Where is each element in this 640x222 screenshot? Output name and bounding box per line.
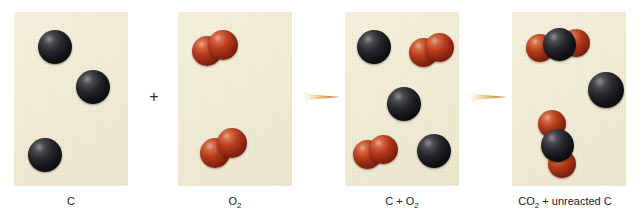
atom-carbon (543, 28, 576, 61)
molecule-carbon-atom (357, 30, 391, 64)
molecule-carbon-atom (76, 70, 110, 104)
molecule-oxygen (200, 124, 256, 166)
panel-label-mixture: C + O2 (345, 194, 459, 210)
panel-products (512, 12, 626, 186)
panel-label-carbon: C (14, 194, 128, 208)
molecule-carbon-atom (38, 30, 72, 64)
atom-carbon (357, 30, 391, 64)
label-subscript: 2 (535, 201, 539, 210)
panel-mixture (345, 12, 459, 186)
atom-oxygen (208, 30, 238, 60)
label-subscript: 2 (414, 201, 418, 210)
atom-carbon (588, 72, 624, 108)
panel-label-oxygen: O2 (178, 194, 292, 210)
plus-symbol: + (145, 88, 163, 106)
atom-carbon (387, 87, 421, 121)
reaction-arrow-icon (299, 86, 341, 108)
molecule-oxygen (353, 132, 407, 168)
panel-reactant-carbon (14, 12, 128, 186)
label-text: O (228, 195, 237, 207)
label-text-tail: + unreacted C (539, 195, 611, 207)
atom-carbon (541, 129, 574, 162)
panel-reactant-oxygen (178, 12, 292, 186)
reaction-arrow-icon (466, 86, 508, 108)
atom-carbon (38, 30, 72, 64)
molecule-carbon-atom (417, 134, 451, 168)
label-text: CO (518, 195, 535, 207)
label-text: C + O (385, 195, 414, 207)
atom-carbon (76, 70, 110, 104)
molecule-carbon-dioxide (526, 24, 604, 64)
atom-carbon (28, 138, 62, 172)
panel-label-products: CO2 + unreacted C (490, 194, 640, 210)
molecule-carbon-atom (387, 87, 421, 121)
molecule-oxygen (409, 30, 463, 66)
molecule-carbon-atom (28, 138, 62, 172)
atom-carbon (417, 134, 451, 168)
molecule-carbon-dioxide (536, 110, 582, 182)
atom-oxygen (217, 128, 247, 158)
reaction-figure: + (0, 0, 640, 222)
atom-oxygen (369, 135, 398, 164)
molecule-carbon-atom (588, 72, 624, 108)
atom-oxygen (425, 33, 454, 62)
label-subscript: 2 (237, 201, 241, 210)
label-text: C (67, 195, 75, 207)
molecule-oxygen (192, 26, 248, 66)
